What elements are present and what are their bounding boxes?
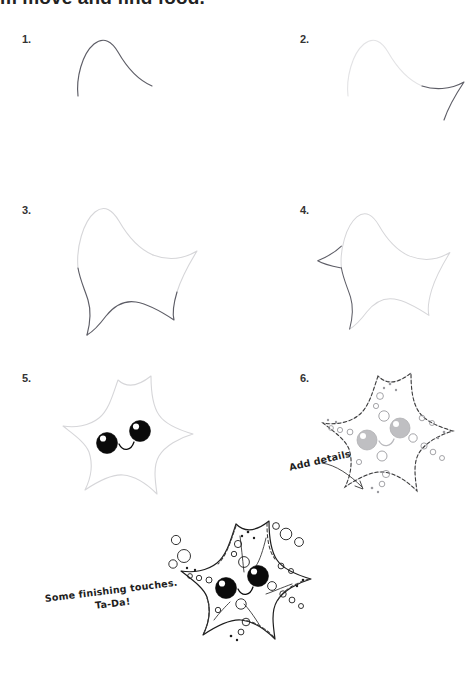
starfish-mouth-step5 xyxy=(119,442,134,449)
step-4-number: 4. xyxy=(300,204,309,216)
starfish-mouth-final xyxy=(238,587,253,594)
step-1-number: 1. xyxy=(22,33,31,45)
step-2-drawing xyxy=(330,28,473,138)
step-5-number: 5. xyxy=(22,372,31,384)
step-6-number: 6. xyxy=(300,372,309,384)
step-2-number: 2. xyxy=(300,33,309,45)
step-3-drawing xyxy=(60,198,230,338)
finishing-touches-caption: Some finishing touches. Ta-Da! xyxy=(44,576,180,618)
step-1-drawing xyxy=(60,28,240,138)
bubbles xyxy=(169,523,304,569)
step-5-drawing xyxy=(55,368,215,498)
final-starfish-drawing xyxy=(168,512,328,657)
page-header-text: m move and find food. xyxy=(0,0,205,9)
step-4-drawing xyxy=(325,198,473,338)
tutorial-page: m move and find food. 1. 2. 3. xyxy=(0,0,473,685)
add-details-arrow xyxy=(318,455,378,497)
step-3-number: 3. xyxy=(22,204,31,216)
